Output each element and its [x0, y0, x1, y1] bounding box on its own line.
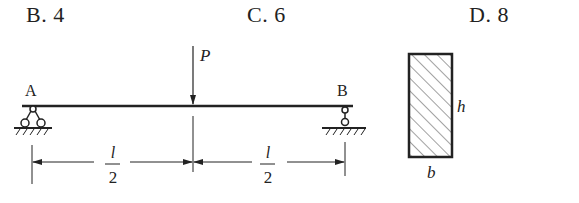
support-b-icon: [322, 107, 366, 135]
dim-left-denominator: 2: [109, 168, 118, 187]
load-label: P: [199, 46, 210, 65]
beam-diagram: P A B: [0, 0, 579, 203]
dim-right-denominator: 2: [264, 168, 273, 187]
cross-section-rect: [409, 54, 452, 157]
dim-right-numerator: l: [266, 144, 271, 161]
dimension-lines: [32, 116, 345, 184]
cross-section-height-label: h: [457, 97, 466, 116]
dim-left-numerator: l: [111, 144, 116, 161]
support-a-label: A: [25, 82, 37, 99]
cross-section-width-label: b: [427, 163, 436, 182]
support-a-icon: [14, 106, 52, 135]
support-b-label: B: [337, 82, 348, 99]
